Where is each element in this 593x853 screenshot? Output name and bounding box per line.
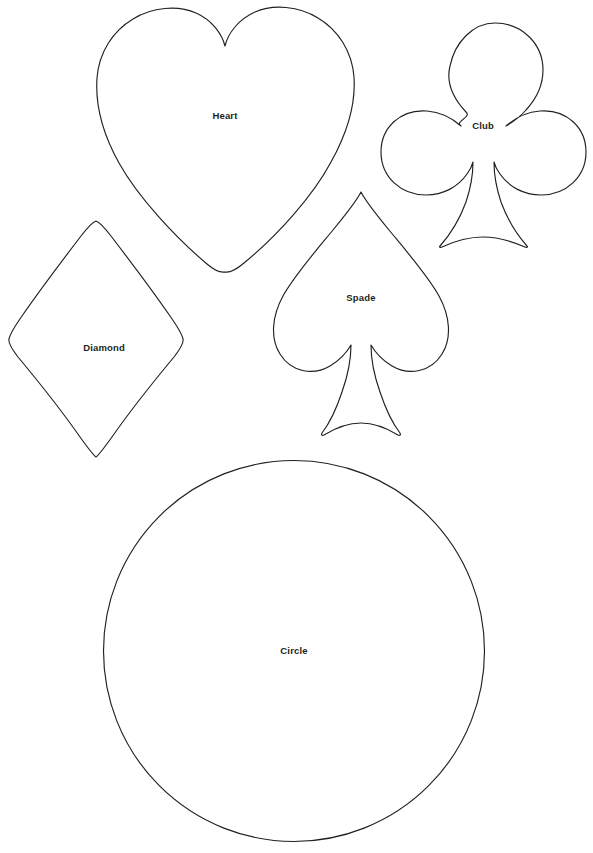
shape-template-sheet: Heart Club Spade Diamond Circle [0,0,593,853]
spade-label: Spade [346,293,375,303]
shapes-canvas [0,0,593,853]
heart-shape[interactable] [97,7,355,272]
spade-shape[interactable] [274,192,449,435]
heart-label: Heart [212,111,237,121]
club-shape[interactable] [381,23,586,247]
club-label: Club [472,121,494,131]
diamond-shape[interactable] [9,221,183,457]
circle-label: Circle [280,646,307,656]
diamond-label: Diamond [83,343,125,353]
